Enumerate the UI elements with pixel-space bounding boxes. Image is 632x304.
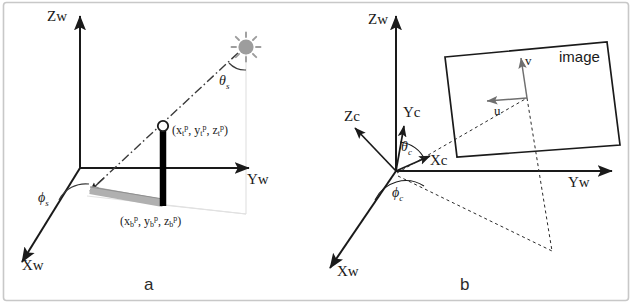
panel-b-label-yc: Yc: [403, 105, 421, 120]
panel-b-label-xc: Xc: [430, 153, 448, 168]
panel-b-theta-c-label: θc: [401, 140, 412, 157]
image-v-axis-label: v: [525, 54, 532, 67]
panel-a-theta-s-label: θs: [219, 74, 229, 91]
panel-a-label-zw: Zw: [47, 9, 67, 24]
image-plane-label: image: [559, 49, 600, 64]
paren-close: ): [224, 123, 228, 137]
figure-graphics: [0, 0, 632, 304]
panel-b-label-xw: Xw: [337, 264, 359, 279]
panel-a-caption: a: [144, 276, 153, 293]
panel-a-label-xw: Xw: [22, 258, 44, 273]
pole-top-marker: [158, 121, 168, 131]
theta-symbol: θ: [219, 73, 226, 88]
theta-subscript: s: [226, 81, 230, 91]
panel-a-label-yw: Yw: [247, 172, 269, 187]
paren-close: ): [177, 214, 181, 228]
pole-base-coordinate-label: (xbp, ybp, zbp): [120, 215, 181, 229]
panel-a-phi-s-label: ϕs: [38, 191, 49, 208]
sun-icon: [232, 33, 261, 62]
panel-b-label-zw: Zw: [368, 12, 388, 27]
pole-top-coordinate-label: (xtp, ytp, ztp): [172, 124, 228, 138]
theta-symbol: θ: [401, 139, 408, 154]
panel-b-caption: b: [460, 276, 469, 293]
image-u-axis-label: u: [494, 104, 501, 117]
figure-container: Zw Yw Xw θs ϕs (xtp, ytp, ztp) (xbp, ybp…: [0, 0, 632, 304]
panel-b-label-yw: Yw: [568, 175, 590, 190]
panel-b-label-zc: Zc: [344, 109, 360, 124]
panel-b-phi-c-label: ϕc: [392, 186, 403, 203]
theta-subscript: c: [408, 147, 412, 157]
phi-subscript: c: [399, 193, 403, 203]
phi-subscript: s: [45, 198, 49, 208]
